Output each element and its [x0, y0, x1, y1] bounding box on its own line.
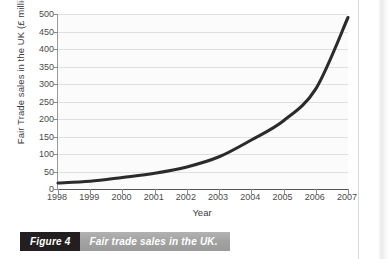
y-axis-tick-400: 400 — [16, 45, 54, 54]
x-axis-tick-2000: 2000 — [111, 192, 131, 202]
y-axis-tick-250: 250 — [16, 97, 54, 106]
x-axis-tick-2002: 2002 — [176, 192, 196, 202]
y-axis-tick-100: 100 — [16, 150, 54, 159]
y-axis-tick-labels: 050100150200250300350400450500 — [16, 9, 54, 194]
x-axis-tick-2001: 2001 — [144, 192, 164, 202]
y-axis-tick-300: 300 — [16, 80, 54, 89]
page-canvas: Fair Trade sales in the UK (£ million) 0… — [0, 0, 389, 259]
x-axis-tick-2003: 2003 — [208, 192, 228, 202]
x-axis-tick-2007: 2007 — [337, 192, 357, 202]
y-axis-tick-200: 200 — [16, 115, 54, 124]
x-axis-tick-1998: 1998 — [47, 192, 67, 202]
x-axis-tick-2005: 2005 — [273, 192, 293, 202]
x-axis-label: Year — [57, 207, 347, 218]
plot-area — [57, 14, 348, 190]
x-axis-tick-labels: 1998199920002001200220032004200520062007 — [57, 192, 347, 206]
figure-caption: Figure 4 Fair trade sales in the UK. — [20, 232, 230, 251]
data-series-line — [58, 14, 348, 189]
x-axis-tick-1999: 1999 — [79, 192, 99, 202]
figure-number-badge: Figure 4 — [20, 232, 80, 251]
page-edge-line — [358, 0, 359, 259]
y-axis-tick-500: 500 — [16, 10, 54, 19]
x-axis-tick-2006: 2006 — [305, 192, 325, 202]
figure-chart: Fair Trade sales in the UK (£ million) 0… — [0, 0, 360, 259]
y-axis-tick-50: 50 — [16, 167, 54, 176]
y-axis-tick-150: 150 — [16, 132, 54, 141]
page-edge-shadow — [373, 0, 389, 259]
y-axis-tick-450: 450 — [16, 27, 54, 36]
figure-caption-text: Fair trade sales in the UK. — [80, 232, 230, 251]
x-axis-tick-2004: 2004 — [240, 192, 260, 202]
y-axis-tick-350: 350 — [16, 62, 54, 71]
